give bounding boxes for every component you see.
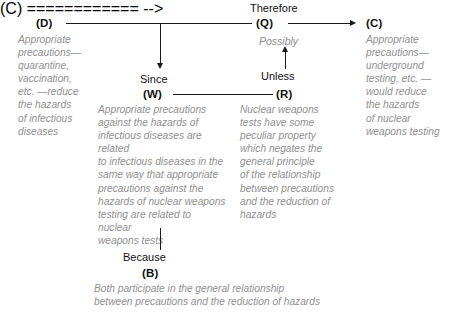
arrowhead-right-icon <box>350 20 356 26</box>
node-text-r: Nuclear weapons tests have some peculiar… <box>240 103 358 221</box>
node-text-d: Appropriate precautions— quarantine, vac… <box>18 33 104 138</box>
arrowhead-down-icon <box>157 63 163 69</box>
node-text-b: Both participate in the general relation… <box>94 282 344 308</box>
connector-label-since: Since <box>140 73 168 85</box>
node-text-w: Appropriate precautions against the haza… <box>98 103 226 247</box>
connector-line-d-to-w <box>160 24 161 64</box>
connector-label-unless: Unless <box>261 70 295 82</box>
arrowhead-up-icon <box>282 46 288 52</box>
connector-line-q-to-c <box>288 23 350 24</box>
connector-label-because: Because <box>123 251 166 263</box>
connector-line-d-to-q <box>66 23 252 24</box>
connector-line-w-to-r <box>173 94 273 95</box>
connector-line-w-to-b <box>160 228 161 250</box>
node-text-c: Appropriate precautions— underground tes… <box>366 33 458 138</box>
connector-line-r-to-q <box>285 52 286 69</box>
qualifier-label-possibly: Possibly <box>259 35 298 47</box>
node-key-c: (C) <box>366 17 383 29</box>
node-key-q: (Q) <box>256 17 273 29</box>
node-key-d: (D) <box>36 17 53 29</box>
node-key-w: (W) <box>143 88 162 100</box>
argument-diagram: (C) ============ --> Therefore (D) (Q) (… <box>0 0 460 312</box>
connector-label-therefore: Therefore <box>250 2 298 14</box>
node-key-r: (R) <box>276 88 293 100</box>
node-key-b: (B) <box>142 267 159 279</box>
